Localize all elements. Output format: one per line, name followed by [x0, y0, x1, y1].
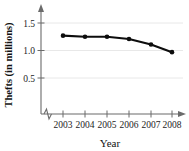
data-point-2007	[149, 42, 154, 47]
x-tick-labels: 2003 2004 2005 2006 2007 2008	[54, 120, 182, 130]
y-axis-title: Thefts (in millions)	[3, 22, 15, 108]
x-axis	[41, 109, 186, 119]
x-tick-label-2005: 2005	[98, 120, 117, 130]
y-axis-arrow-icon	[38, 4, 44, 12]
chart-canvas: 1.5 1.0 0.5 2003 2004 2005 2006 2007 200…	[0, 0, 189, 151]
y-tick-labels: 1.5 1.0 0.5	[23, 19, 35, 84]
x-tick-label-2008: 2008	[163, 120, 182, 130]
x-tick-label-2006: 2006	[120, 120, 139, 130]
data-point-2008	[170, 50, 175, 55]
data-point-2003	[61, 33, 66, 38]
line-chart: 1.5 1.0 0.5 2003 2004 2005 2006 2007 200…	[0, 0, 189, 151]
y-tick-label-0.5: 0.5	[23, 74, 35, 84]
x-tick-label-2007: 2007	[142, 120, 161, 130]
y-tick-label-1.5: 1.5	[23, 19, 35, 29]
data-series-thefts	[61, 33, 175, 54]
y-axis	[38, 4, 45, 114]
data-point-2004	[83, 34, 88, 39]
x-axis-title: Year	[100, 137, 121, 149]
y-tick-label-1.0: 1.0	[23, 46, 35, 56]
gridlines	[41, 23, 183, 78]
x-tick-label-2003: 2003	[54, 120, 73, 130]
data-point-2005	[105, 34, 110, 39]
x-tick-label-2004: 2004	[76, 120, 95, 130]
data-point-2006	[127, 37, 132, 42]
x-axis-arrow-icon	[178, 111, 186, 117]
series-line	[63, 36, 172, 53]
